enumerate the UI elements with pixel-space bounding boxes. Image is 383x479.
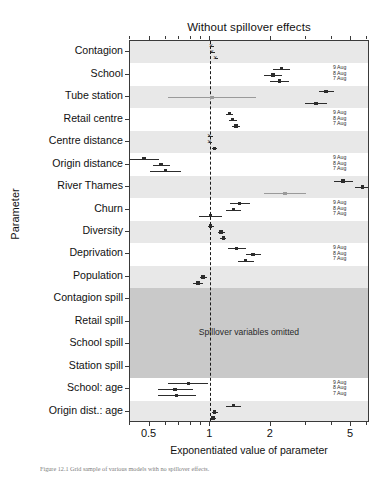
omitted-band-label: Spillover variables omitted (130, 327, 368, 337)
estimate-point (234, 124, 237, 127)
y-axis-tick (125, 411, 129, 412)
estimate-point (271, 73, 274, 76)
row-band (130, 266, 368, 288)
y-axis-category-label: Contagion (0, 44, 123, 56)
y-axis-category-label: Origin dist.: age (0, 404, 123, 416)
estimate-point (231, 118, 234, 121)
x-axis-tick (305, 422, 306, 425)
estimate-point (278, 79, 281, 82)
x-axis-tick (270, 422, 271, 426)
plot-inner: Spillover variables omitted××××× (130, 41, 368, 421)
estimate-point (280, 67, 283, 70)
y-axis-tick (125, 74, 129, 75)
y-axis-category-label: School: age (0, 381, 123, 393)
row-band (130, 176, 368, 198)
row-band (130, 221, 368, 243)
figure-container: Without spillover effects Spillover vari… (0, 0, 383, 479)
estimate-point (283, 192, 286, 195)
y-axis-title: Parameter (9, 154, 21, 274)
legend-entry: 7 Aug (333, 166, 363, 172)
estimate-point (232, 404, 235, 407)
estimate-point (142, 157, 145, 160)
chart-title: Without spillover effects (129, 21, 369, 33)
y-axis-category-label: School (0, 67, 123, 79)
estimate-point (235, 247, 238, 250)
figure-caption: Figure 12.1 Grid sample of various model… (40, 465, 345, 472)
estimate-point (324, 90, 327, 93)
estimate-point (251, 253, 254, 256)
estimate-point (211, 416, 214, 419)
x-axis-tick (350, 36, 351, 40)
date-legend: 9 Aug8 Aug7 Aug (333, 110, 363, 127)
estimate-point (361, 185, 364, 188)
legend-entry: 7 Aug (333, 76, 363, 82)
estimate-point (175, 394, 178, 397)
row-band (130, 131, 368, 153)
x-axis-tick (200, 422, 201, 425)
y-axis-tick (125, 141, 129, 142)
estimate-point (196, 281, 199, 284)
estimate-point (314, 102, 317, 105)
y-axis-tick (125, 276, 129, 277)
x-axis-tick-label: 2 (250, 427, 290, 439)
y-axis-tick (125, 119, 129, 120)
estimate-point (209, 214, 212, 217)
x-axis-tick (331, 36, 332, 39)
x-axis-tick (190, 422, 191, 425)
y-axis-category-label: Contagion spill (0, 291, 123, 303)
x-axis-tick-label: 1 (189, 427, 229, 439)
date-legend: 9 Aug8 Aug7 Aug (333, 155, 363, 172)
x-axis-tick (200, 36, 201, 39)
y-axis-tick (125, 96, 129, 97)
estimate-point (238, 202, 241, 205)
x-axis-tick (190, 36, 191, 39)
estimate-point (210, 96, 213, 99)
estimate-point (222, 236, 225, 239)
y-axis-category-label: Tube station (0, 89, 123, 101)
x-axis-tick (129, 422, 130, 425)
y-axis-tick (125, 366, 129, 367)
y-axis-category-label: Centre distance (0, 134, 123, 146)
estimate-point (201, 275, 204, 278)
estimate-point (213, 410, 216, 413)
row-band (130, 401, 368, 422)
x-axis-tick (149, 36, 150, 40)
y-axis-tick (125, 321, 129, 322)
x-axis-tick (178, 36, 179, 39)
x-axis-tick (209, 36, 210, 40)
y-axis-category-label: Station spill (0, 359, 123, 371)
y-axis-category-label: Retail spill (0, 314, 123, 326)
x-axis-tick (149, 422, 150, 426)
x-axis-tick-label: 5 (330, 427, 370, 439)
y-axis-tick (125, 298, 129, 299)
x-axis-tick (350, 422, 351, 426)
legend-entry: 7 Aug (333, 211, 363, 217)
estimate-point (213, 147, 216, 150)
plot-area: Spillover variables omitted××××× (129, 40, 369, 422)
omitted-band (130, 288, 368, 310)
x-axis-tick (209, 422, 210, 426)
x-axis-tick (165, 422, 166, 425)
estimate-point (173, 388, 176, 391)
x-axis-tick (366, 36, 367, 39)
y-axis-tick (125, 388, 129, 389)
estimate-point (164, 169, 167, 172)
y-axis-tick (125, 253, 129, 254)
y-axis-tick (125, 186, 129, 187)
date-legend: 9 Aug8 Aug7 Aug (333, 245, 363, 262)
legend-entry: 7 Aug (333, 256, 363, 262)
legend-entry: 7 Aug (333, 391, 363, 397)
estimate-point (228, 112, 231, 115)
y-axis-tick (125, 164, 129, 165)
y-axis-tick (125, 343, 129, 344)
row-band (130, 41, 368, 63)
estimate-point (187, 382, 190, 385)
date-legend: 9 Aug8 Aug7 Aug (333, 380, 363, 397)
estimate-point (341, 179, 344, 182)
date-legend: 9 Aug8 Aug7 Aug (333, 65, 363, 82)
x-axis-tick (366, 422, 367, 425)
y-axis-category-label: Retail centre (0, 112, 123, 124)
date-legend: 9 Aug8 Aug7 Aug (333, 200, 363, 217)
estimate-point (244, 259, 247, 262)
x-axis-title: Exponentiated value of parameter (129, 444, 369, 456)
